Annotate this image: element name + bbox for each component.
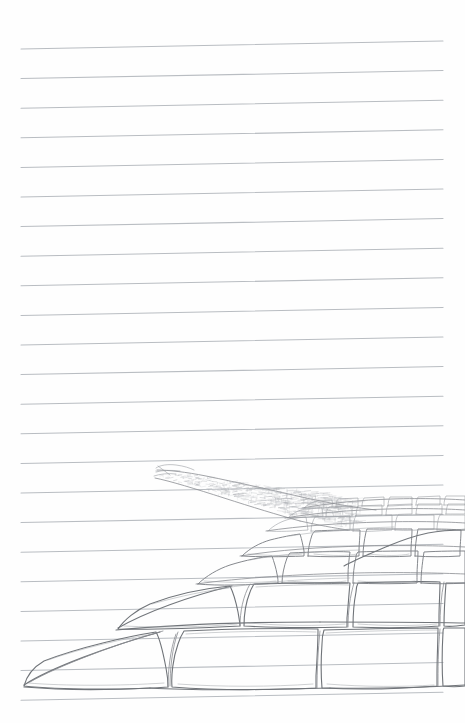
rule-line [21,100,443,108]
rule-line [21,248,443,256]
rule-line [21,307,443,315]
rule-line [21,603,443,611]
rule-line [21,396,443,404]
rule-line [21,633,443,641]
rule-line [21,485,443,493]
rule-line [21,692,443,700]
rule-line [21,71,443,79]
rule-line [21,337,443,345]
rule-line [21,130,443,138]
rule-line [21,41,443,49]
rule-line [21,574,443,582]
rule-line [21,278,443,286]
rule-line [21,367,443,375]
rule-line [21,159,443,167]
ruled-lines-layer [0,0,465,723]
notebook-page [0,0,465,723]
rule-line-group [21,41,443,700]
rule-line [21,189,443,197]
rule-line [21,663,443,671]
rule-line [21,426,443,434]
rule-line [21,219,443,227]
rule-line [21,455,443,463]
rule-line [21,515,443,523]
rule-line [21,544,443,552]
